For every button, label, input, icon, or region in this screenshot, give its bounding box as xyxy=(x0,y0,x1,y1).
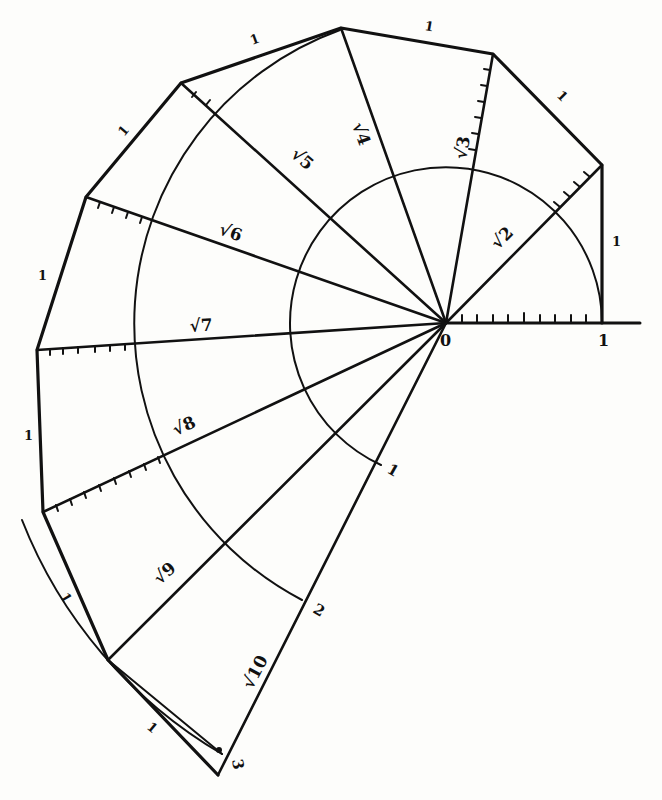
label-sqrt10: √10 xyxy=(238,652,272,692)
leg-label-6: 1 xyxy=(38,268,47,283)
label-sqrt2: √2 xyxy=(487,222,517,252)
spiral-legs xyxy=(37,28,602,775)
label-sqrt7: √7 xyxy=(189,314,213,336)
leg-label-9: 1 xyxy=(144,719,161,736)
arc-3-point xyxy=(216,747,222,753)
label-sqrt6: √6 xyxy=(217,219,245,245)
arc-label-1: 1 xyxy=(384,460,402,481)
arc-label-2: 2 xyxy=(310,600,328,621)
label-sqrt5: √5 xyxy=(287,144,317,174)
leg-label-3: 1 xyxy=(423,18,435,34)
leg-label-1: 1 xyxy=(612,234,621,249)
leg-label-2: 1 xyxy=(554,88,571,105)
leg-label-8: 1 xyxy=(57,590,75,605)
tangent-line xyxy=(108,660,222,754)
label-sqrt9: √9 xyxy=(149,558,179,588)
arc-radius-3 xyxy=(22,520,222,754)
spiral-diagram: 0 1 √2 √3 √4 √5 √6 √7 √8 √9 √10 1 1 1 1 … xyxy=(0,0,662,800)
label-sqrt4: √4 xyxy=(348,120,375,149)
arc-radius-2 xyxy=(134,30,340,600)
hatch-ticks xyxy=(50,69,590,511)
hypotenuse-rays xyxy=(37,28,602,775)
label-sqrt3: √3 xyxy=(450,135,474,161)
arc-label-3: 3 xyxy=(228,758,248,771)
leg-label-4: 1 xyxy=(248,31,262,48)
origin-label: 0 xyxy=(440,331,451,350)
leg-label-7: 1 xyxy=(24,428,33,443)
label-sqrt8: √8 xyxy=(169,412,198,440)
leg-label-5: 1 xyxy=(115,122,132,139)
axis-unit-label: 1 xyxy=(598,331,609,350)
